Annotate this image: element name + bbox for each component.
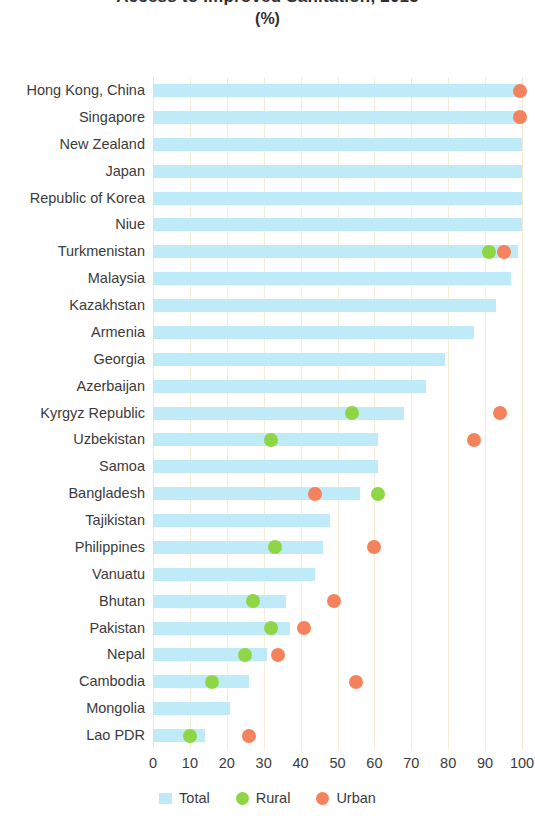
legend-dot-icon bbox=[236, 792, 249, 805]
legend-label: Total bbox=[179, 790, 210, 806]
dot-row bbox=[153, 77, 522, 104]
x-axis-tick-label: 60 bbox=[366, 755, 382, 771]
category-label: Kyrgyz Republic bbox=[0, 400, 145, 427]
legend-label: Urban bbox=[336, 790, 376, 806]
x-axis-tick-label: 10 bbox=[182, 755, 198, 771]
chart-title: Access to Improved Sanitation, 2015 bbox=[0, 0, 535, 8]
category-label: Tajikistan bbox=[0, 507, 145, 534]
category-label: Cambodia bbox=[0, 668, 145, 695]
urban-dot bbox=[349, 675, 363, 689]
category-label: New Zealand bbox=[0, 131, 145, 158]
rural-dot bbox=[205, 675, 219, 689]
dot-row bbox=[153, 534, 522, 561]
category-label: Singapore bbox=[0, 104, 145, 131]
legend-square-icon bbox=[159, 793, 172, 804]
category-label: Vanuatu bbox=[0, 561, 145, 588]
dot-row bbox=[153, 695, 522, 722]
urban-dot bbox=[271, 648, 285, 662]
category-label: Azerbaijan bbox=[0, 373, 145, 400]
dot-row bbox=[153, 292, 522, 319]
category-label: Nepal bbox=[0, 641, 145, 668]
category-label: Hong Kong, China bbox=[0, 77, 145, 104]
category-label: Georgia bbox=[0, 346, 145, 373]
plot-area bbox=[153, 77, 522, 749]
chart-legend: TotalRuralUrban bbox=[0, 790, 535, 806]
gridline bbox=[522, 77, 523, 749]
rural-dot bbox=[345, 406, 359, 420]
dot-row bbox=[153, 507, 522, 534]
dot-row bbox=[153, 426, 522, 453]
category-label: Pakistan bbox=[0, 615, 145, 642]
dot-row bbox=[153, 615, 522, 642]
x-axis-tick-label: 100 bbox=[510, 755, 534, 771]
dot-row bbox=[153, 373, 522, 400]
legend-item-total: Total bbox=[159, 790, 210, 806]
urban-dot bbox=[513, 110, 527, 124]
x-axis-tick-label: 70 bbox=[403, 755, 419, 771]
dot-row bbox=[153, 319, 522, 346]
urban-dot bbox=[327, 594, 341, 608]
category-label: Lao PDR bbox=[0, 722, 145, 749]
category-label: Uzbekistan bbox=[0, 426, 145, 453]
dot-row bbox=[153, 185, 522, 212]
category-label: Japan bbox=[0, 158, 145, 185]
category-label: Turkmenistan bbox=[0, 238, 145, 265]
value-axis-labels: 0102030405060708090100 bbox=[153, 755, 522, 779]
dot-row bbox=[153, 641, 522, 668]
dot-row bbox=[153, 588, 522, 615]
category-label: Kazakhstan bbox=[0, 292, 145, 319]
legend-item-rural: Rural bbox=[236, 790, 291, 806]
category-label: Armenia bbox=[0, 319, 145, 346]
category-label: Republic of Korea bbox=[0, 185, 145, 212]
urban-dot bbox=[513, 84, 527, 98]
urban-dot bbox=[367, 540, 381, 554]
dot-series-rural-urban bbox=[153, 77, 522, 749]
rural-dot bbox=[371, 487, 385, 501]
urban-dot bbox=[497, 245, 511, 259]
rural-dot bbox=[264, 433, 278, 447]
category-label: Bangladesh bbox=[0, 480, 145, 507]
legend-item-urban: Urban bbox=[316, 790, 376, 806]
category-axis-labels: Hong Kong, ChinaSingaporeNew ZealandJapa… bbox=[0, 77, 145, 749]
dot-row bbox=[153, 561, 522, 588]
dot-row bbox=[153, 346, 522, 373]
urban-dot bbox=[467, 433, 481, 447]
dot-row bbox=[153, 668, 522, 695]
category-label: Samoa bbox=[0, 453, 145, 480]
category-label: Bhutan bbox=[0, 588, 145, 615]
dot-row bbox=[153, 131, 522, 158]
x-axis-tick-label: 0 bbox=[149, 755, 157, 771]
x-axis-tick-label: 50 bbox=[329, 755, 345, 771]
x-axis-tick-label: 90 bbox=[477, 755, 493, 771]
rural-dot bbox=[238, 648, 252, 662]
dot-row bbox=[153, 265, 522, 292]
x-axis-tick-label: 20 bbox=[219, 755, 235, 771]
urban-dot bbox=[493, 406, 507, 420]
category-label: Niue bbox=[0, 211, 145, 238]
urban-dot bbox=[308, 487, 322, 501]
chart-subtitle: (%) bbox=[0, 8, 535, 30]
x-axis-tick-label: 80 bbox=[440, 755, 456, 771]
dot-row bbox=[153, 453, 522, 480]
rural-dot bbox=[183, 729, 197, 743]
rural-dot bbox=[246, 594, 260, 608]
dot-row bbox=[153, 104, 522, 131]
dot-row bbox=[153, 722, 522, 749]
category-label: Mongolia bbox=[0, 695, 145, 722]
dot-row bbox=[153, 238, 522, 265]
dot-row bbox=[153, 400, 522, 427]
legend-dot-icon bbox=[316, 792, 329, 805]
urban-dot bbox=[242, 729, 256, 743]
dot-row bbox=[153, 480, 522, 507]
category-label: Philippines bbox=[0, 534, 145, 561]
urban-dot bbox=[297, 621, 311, 635]
x-axis-tick-label: 40 bbox=[293, 755, 309, 771]
rural-dot bbox=[482, 245, 496, 259]
legend-label: Rural bbox=[256, 790, 291, 806]
dot-row bbox=[153, 158, 522, 185]
x-axis-tick-label: 30 bbox=[256, 755, 272, 771]
category-label: Malaysia bbox=[0, 265, 145, 292]
rural-dot bbox=[264, 621, 278, 635]
rural-dot bbox=[268, 540, 282, 554]
dot-row bbox=[153, 211, 522, 238]
